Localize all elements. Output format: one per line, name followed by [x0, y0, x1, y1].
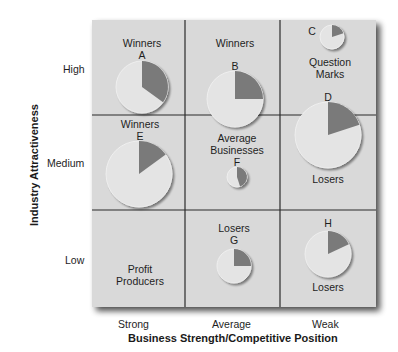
business-id-d: D [320, 91, 336, 103]
pie-d [295, 102, 361, 168]
business-id-h: H [318, 217, 338, 229]
business-id-c: C [305, 25, 319, 37]
business-id-a: A [112, 49, 172, 61]
business-id-e: E [110, 130, 170, 142]
business-id-f: F [197, 156, 277, 168]
pie-b [207, 71, 263, 127]
label-text: Average [197, 132, 277, 144]
label-text: Question [300, 56, 360, 68]
cell-label-profit-producers: Profit Producers [105, 263, 175, 287]
label-text: Marks [300, 68, 360, 80]
cell-label-losers-d: Losers [298, 173, 358, 185]
pie-h [305, 231, 351, 277]
label-text: Losers [204, 222, 264, 234]
pie-g [217, 249, 251, 283]
x-tick-strong: Strong [118, 318, 149, 330]
cell-label-winners-e: Winners E [110, 118, 170, 142]
business-id-g: G [204, 234, 264, 246]
pie-f [227, 167, 247, 187]
cell-label-winners-b: Winners [205, 37, 265, 49]
label-text: Producers [105, 275, 175, 287]
y-tick-high: High [63, 63, 85, 75]
cell-label-question-marks: Question Marks [300, 56, 360, 80]
label-text: Profit [105, 263, 175, 275]
cell-label-losers-g: Losers G [204, 222, 264, 246]
x-axis-title: Business Strength/Competitive Position [128, 332, 338, 344]
cell-label-average-businesses: Average Businesses F [197, 132, 277, 168]
y-tick-medium: Medium [47, 157, 84, 169]
label-text: Businesses [197, 144, 277, 156]
label-text: Winners [112, 37, 172, 49]
x-tick-average: Average [212, 318, 251, 330]
cell-label-losers-h: Losers [298, 281, 358, 293]
label-text: Winners [205, 37, 265, 49]
business-id-b: B [225, 60, 245, 72]
pie-e [106, 141, 172, 207]
cell-label-winners-a: Winners A [112, 37, 172, 61]
x-tick-weak: Weak [312, 318, 339, 330]
y-tick-low: Low [65, 254, 84, 266]
pie-c [320, 25, 344, 49]
label-text: Winners [110, 118, 170, 130]
y-axis-title: Industry Attractiveness [28, 95, 40, 235]
pie-a [116, 61, 168, 113]
